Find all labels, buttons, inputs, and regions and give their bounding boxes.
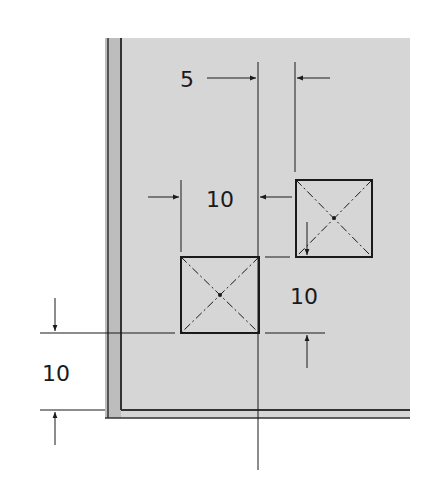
dimension-width-label: 10	[206, 187, 234, 212]
dimension-vertical-offset-label: 10	[290, 284, 318, 309]
dimension-gap-label: 5	[180, 67, 194, 92]
drawing-canvas: 5 10 10 10	[0, 0, 430, 492]
dimension-edge-distance-label: 10	[42, 361, 70, 386]
